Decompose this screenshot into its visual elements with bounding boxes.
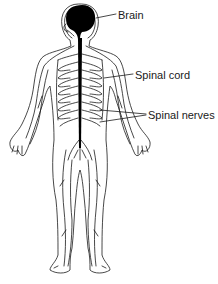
label-brain: Brain (118, 10, 144, 21)
spinal-cord-shape (78, 38, 82, 148)
nervous-system-figure (0, 0, 218, 284)
label-spinal-cord: Spinal cord (135, 70, 190, 81)
brain-shape (66, 5, 95, 40)
label-spinal-nerves: Spinal nerves (148, 110, 215, 121)
brain-pointer-line (96, 14, 116, 18)
